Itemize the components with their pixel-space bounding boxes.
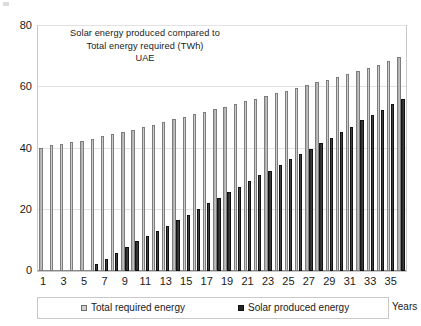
y-axis-tick-label: 60	[20, 81, 32, 92]
x-axis-tick-label: 25	[282, 275, 294, 288]
bar-total-required-energy	[131, 130, 134, 271]
y-axis-tick-label: 0	[26, 265, 32, 276]
bar-total-required-energy	[142, 127, 145, 271]
bar-solar-produced-energy	[156, 231, 159, 271]
bar-solar-produced-energy	[125, 247, 128, 271]
bar-total-required-energy	[336, 77, 339, 271]
bar-total-required-energy	[346, 74, 349, 271]
bar-group	[171, 26, 181, 271]
x-axis-tick-label: 31	[344, 275, 356, 288]
bar-solar-produced-energy	[340, 132, 343, 271]
bar-total-required-energy	[183, 117, 186, 271]
bar-solar-produced-energy	[238, 187, 241, 271]
bar-total-required-energy	[244, 101, 247, 271]
legend-swatch-icon-total	[81, 305, 87, 311]
bar-solar-produced-energy	[207, 203, 210, 271]
bar-group	[396, 26, 406, 271]
bar-total-required-energy	[111, 134, 114, 271]
x-axis-tick-label: 29	[323, 275, 335, 288]
bar-solar-produced-energy	[330, 138, 333, 271]
bar-total-required-energy	[295, 88, 298, 271]
chart-legend: Total required energy Solar produced ene…	[37, 297, 389, 319]
bar-group	[140, 26, 150, 271]
x-axis: 1357911131517192123252729313335	[38, 275, 406, 291]
bar-solar-produced-energy	[268, 171, 271, 271]
legend-label-solar: Solar produced energy	[248, 302, 349, 314]
bar-solar-produced-energy	[401, 99, 404, 271]
y-axis-tick-label: 80	[20, 20, 32, 31]
bar-total-required-energy	[101, 136, 104, 271]
legend-item-solar-produced-energy: Solar produced energy	[238, 302, 349, 314]
bar-total-required-energy	[80, 141, 83, 271]
x-axis-tick-label: 23	[262, 275, 274, 288]
bar-solar-produced-energy	[248, 181, 251, 271]
bar-solar-produced-energy	[360, 120, 363, 271]
x-axis-tick-label: 27	[303, 275, 315, 288]
bar-total-required-energy	[315, 82, 318, 271]
y-axis-tick-label: 40	[20, 143, 32, 154]
y-axis: 020406080	[0, 0, 37, 326]
bar-total-required-energy	[39, 148, 42, 271]
bar-total-required-energy	[203, 112, 206, 271]
bar-total-required-energy	[152, 125, 155, 271]
bar-total-required-energy	[305, 85, 308, 271]
y-axis-tick-label: 20	[20, 204, 32, 215]
bar-total-required-energy	[162, 122, 165, 271]
bar-group	[202, 26, 212, 271]
x-axis-tick-label: 19	[221, 275, 233, 288]
bar-total-required-energy	[397, 57, 400, 271]
x-axis-tick-label: 33	[364, 275, 376, 288]
bar-solar-produced-energy	[105, 259, 108, 271]
bar-total-required-energy	[356, 71, 359, 271]
bar-group	[222, 26, 232, 271]
x-axis-tick-label: 9	[122, 275, 128, 288]
bar-group	[181, 26, 191, 271]
bar-solar-produced-energy	[115, 253, 118, 271]
bar-group	[38, 26, 48, 271]
bar-solar-produced-energy	[350, 127, 353, 271]
x-axis-tick-label: 17	[201, 275, 213, 288]
x-axis-tick-label: 15	[180, 275, 192, 288]
bar-total-required-energy	[60, 144, 63, 271]
bar-solar-produced-energy	[258, 175, 261, 271]
x-axis-tick-label: 5	[81, 275, 87, 288]
bar-group	[294, 26, 304, 271]
bar-group	[283, 26, 293, 271]
bar-solar-produced-energy	[197, 209, 200, 271]
bar-group	[69, 26, 79, 271]
bar-group	[79, 26, 89, 271]
bar-solar-produced-energy	[309, 149, 312, 272]
legend-item-total-required-energy: Total required energy	[81, 302, 185, 314]
bar-group	[355, 26, 365, 271]
bar-total-required-energy	[213, 109, 216, 271]
bar-total-required-energy	[367, 68, 370, 271]
bar-group	[314, 26, 324, 271]
bar-solar-produced-energy	[95, 264, 98, 271]
x-axis-tick-label: 1	[40, 275, 46, 288]
bar-group	[263, 26, 273, 271]
bar-group	[212, 26, 222, 271]
bar-total-required-energy	[91, 139, 94, 271]
bar-solar-produced-energy	[381, 110, 384, 271]
x-axis-tick-label: 7	[101, 275, 107, 288]
bar-solar-produced-energy	[299, 154, 302, 271]
bar-group	[273, 26, 283, 271]
bar-group	[161, 26, 171, 271]
bar-group	[191, 26, 201, 271]
bar-solar-produced-energy	[217, 198, 220, 271]
bar-group	[110, 26, 120, 271]
bar-total-required-energy	[264, 96, 267, 271]
bar-solar-produced-energy	[187, 215, 190, 271]
bars-layer	[38, 26, 406, 271]
bar-total-required-energy	[70, 142, 73, 271]
x-axis-tick-label: 21	[241, 275, 253, 288]
bar-group	[58, 26, 68, 271]
bar-total-required-energy	[254, 99, 257, 271]
bar-solar-produced-energy	[176, 220, 179, 271]
x-axis-title: Years	[392, 301, 417, 313]
bar-solar-produced-energy	[319, 143, 322, 271]
x-axis-tick-label: 11	[140, 275, 151, 288]
bar-group	[375, 26, 385, 271]
bar-total-required-energy	[275, 93, 278, 271]
bar-solar-produced-energy	[146, 236, 149, 271]
